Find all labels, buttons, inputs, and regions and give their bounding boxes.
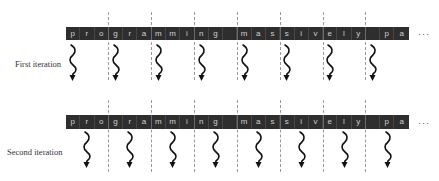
continuation-ellipsis: ··· (418, 29, 430, 39)
character-cell: a (394, 115, 408, 129)
character-cell: p (380, 115, 394, 129)
character-cell: e (323, 115, 337, 129)
character-cell: p (66, 27, 80, 40)
wavy-thread-arrow-icon (80, 131, 94, 169)
character-cell: s (280, 27, 294, 40)
character-cell (366, 115, 380, 129)
segment-divider (365, 100, 366, 172)
wavy-thread-arrow-icon (280, 44, 294, 82)
character-cell: l (337, 115, 351, 129)
wavy-thread-arrow-icon (252, 131, 266, 169)
wavy-thread-arrow-icon (338, 131, 352, 169)
segment-divider-overlay (280, 27, 281, 40)
character-cell: m (152, 115, 166, 129)
character-cell: p (380, 27, 394, 40)
wavy-thread-arrow-icon (166, 131, 180, 169)
segment-divider (151, 100, 152, 172)
segment-divider-overlay (365, 115, 366, 129)
segment-divider-overlay (323, 27, 324, 40)
character-cell: o (95, 27, 109, 40)
wavy-thread-arrow-icon (295, 131, 309, 169)
character-cell: r (80, 115, 94, 129)
iteration-diagram: First iterationprogramming massively pa·… (0, 0, 439, 181)
character-cell: r (123, 115, 137, 129)
character-cell: v (309, 115, 323, 129)
wavy-thread-arrow-icon (381, 131, 395, 169)
wavy-thread-arrow-icon (238, 44, 252, 82)
segment-divider-overlay (237, 115, 238, 129)
character-cell: y (352, 115, 366, 129)
character-cell: g (209, 27, 223, 40)
character-cell: g (109, 115, 123, 129)
wavy-thread-arrow-icon (152, 44, 166, 82)
segment-divider (108, 100, 109, 172)
character-cell: i (180, 27, 194, 40)
segment-divider-overlay (108, 27, 109, 40)
character-cell: g (109, 27, 123, 40)
character-cell: r (80, 27, 94, 40)
wavy-thread-arrow-icon (366, 44, 380, 82)
continuation-ellipsis: ··· (418, 118, 430, 128)
character-cell: i (295, 27, 309, 40)
character-cell: e (323, 27, 337, 40)
character-cell: g (209, 115, 223, 129)
wavy-thread-arrow-icon (323, 44, 337, 82)
segment-divider-overlay (151, 27, 152, 40)
character-cell: y (352, 27, 366, 40)
segment-divider (194, 100, 195, 172)
character-cell (223, 115, 237, 129)
wavy-thread-arrow-icon (123, 131, 137, 169)
segment-divider-overlay (108, 115, 109, 129)
segment-divider-overlay (280, 115, 281, 129)
iteration-label: First iteration (15, 59, 61, 69)
character-cell (223, 27, 237, 40)
wavy-thread-arrow-icon (66, 44, 80, 82)
segment-divider-overlay (323, 115, 324, 129)
character-cell: s (266, 115, 280, 129)
segment-divider-overlay (194, 27, 195, 40)
character-cell: i (180, 115, 194, 129)
segment-divider-overlay (365, 27, 366, 40)
character-cell: v (309, 27, 323, 40)
character-cell: n (195, 115, 209, 129)
character-cell: a (252, 27, 266, 40)
iteration-label: Second iteration (7, 147, 62, 157)
segment-divider-overlay (194, 115, 195, 129)
character-cell: s (266, 27, 280, 40)
character-cell: a (252, 115, 266, 129)
character-cell: o (95, 115, 109, 129)
segment-divider (237, 100, 238, 172)
character-cell: a (137, 27, 151, 40)
character-cell: p (66, 115, 80, 129)
character-cell: l (337, 27, 351, 40)
character-cell: m (152, 27, 166, 40)
character-cell: m (166, 27, 180, 40)
character-cell: i (295, 115, 309, 129)
character-cell (366, 27, 380, 40)
segment-divider (280, 100, 281, 172)
character-cell: m (237, 115, 251, 129)
wavy-thread-arrow-icon (195, 44, 209, 82)
character-cell: a (394, 27, 408, 40)
segment-divider-overlay (151, 115, 152, 129)
segment-divider (323, 100, 324, 172)
wavy-thread-arrow-icon (109, 44, 123, 82)
segment-divider-overlay (237, 27, 238, 40)
character-cell: m (166, 115, 180, 129)
character-cell: a (137, 115, 151, 129)
wavy-thread-arrow-icon (209, 131, 223, 169)
character-cell: n (195, 27, 209, 40)
character-cell: s (280, 115, 294, 129)
character-cell: m (237, 27, 251, 40)
character-cell: r (123, 27, 137, 40)
